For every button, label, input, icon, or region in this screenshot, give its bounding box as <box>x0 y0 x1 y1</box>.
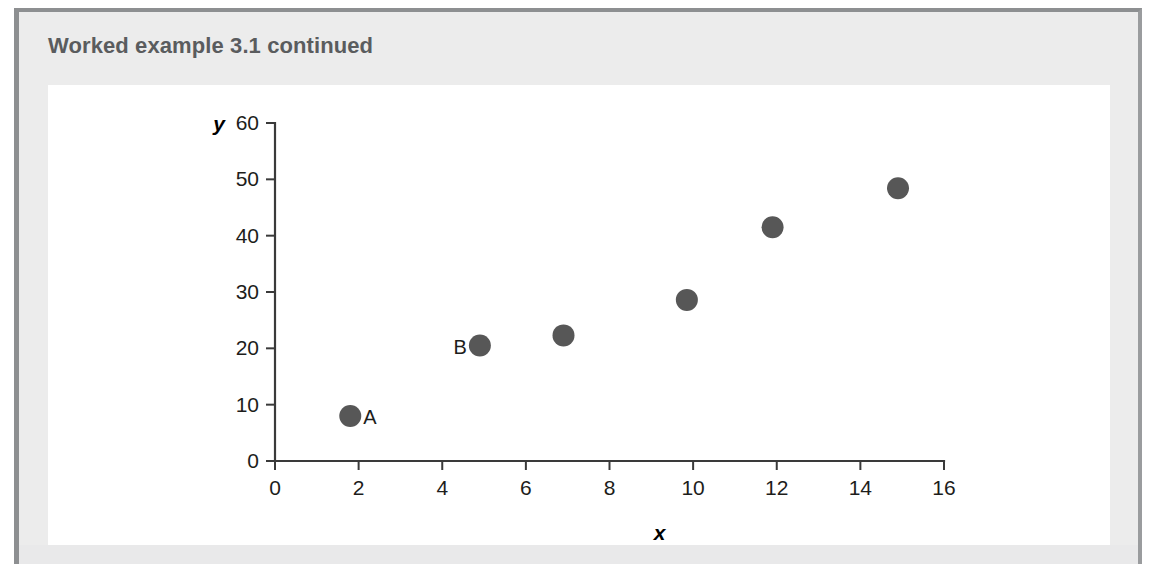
x-tick-label: 8 <box>604 476 616 499</box>
y-tick-label: 30 <box>236 280 259 303</box>
x-tick-label: 6 <box>520 476 532 499</box>
data-point-marker <box>887 177 909 199</box>
y-axis-label: y <box>212 112 226 135</box>
data-point-marker <box>762 216 784 238</box>
panel-bottom-strip <box>19 545 1138 564</box>
data-point-marker <box>676 289 698 311</box>
x-tick-label: 12 <box>765 476 788 499</box>
data-point-marker <box>469 335 491 357</box>
y-tick-label: 20 <box>236 336 259 359</box>
x-tick-label: 2 <box>353 476 365 499</box>
data-point-label-b: B <box>454 336 467 358</box>
data-point-label-a: A <box>363 406 377 428</box>
x-tick-label: 14 <box>849 476 873 499</box>
y-tick-label: 10 <box>236 393 259 416</box>
chart-card: 01020304050600246810121416yxAB <box>48 85 1110 545</box>
data-point-marker <box>553 324 575 346</box>
y-tick-label: 0 <box>247 449 259 472</box>
y-tick-label: 50 <box>236 167 259 190</box>
page-title: Worked example 3.1 continued <box>48 33 373 59</box>
x-axis-label: x <box>653 521 667 544</box>
y-tick-label: 60 <box>236 111 259 134</box>
x-tick-label: 4 <box>436 476 448 499</box>
x-tick-label: 10 <box>681 476 704 499</box>
data-point-marker <box>339 405 361 427</box>
y-tick-label: 40 <box>236 224 259 247</box>
x-tick-label: 16 <box>932 476 955 499</box>
x-tick-label: 0 <box>269 476 281 499</box>
page-root: Worked example 3.1 continued 01020304050… <box>0 0 1158 570</box>
scatter-plot: 01020304050600246810121416yxAB <box>48 85 1110 545</box>
